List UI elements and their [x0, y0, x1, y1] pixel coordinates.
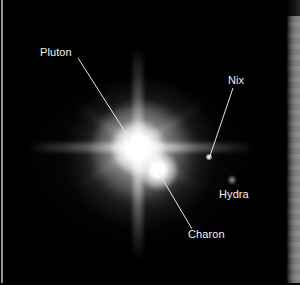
page-edge-left	[1, 0, 3, 285]
label-charon: Charon	[188, 228, 225, 240]
label-hydra: Hydra	[219, 188, 249, 200]
pluto-system-image: Pluton Nix Hydra Charon	[0, 0, 300, 285]
leader-line-pluton	[78, 58, 131, 141]
page-edge-right-notch	[287, 0, 300, 16]
leader-lines	[0, 0, 300, 285]
label-pluton: Pluton	[40, 46, 72, 58]
label-nix: Nix	[228, 74, 244, 86]
page-edge-right-banding	[287, 0, 300, 285]
leader-line-nix	[210, 88, 233, 156]
leader-line-charon	[159, 173, 192, 229]
